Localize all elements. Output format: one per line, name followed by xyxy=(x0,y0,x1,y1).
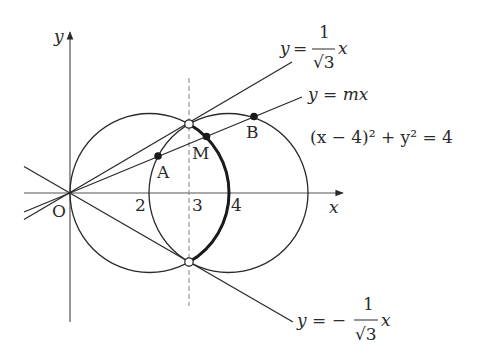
line-y-neg-1-over-sqrt3-x xyxy=(24,167,293,323)
label-A: A xyxy=(156,162,170,182)
label-y-axis: y xyxy=(53,26,64,46)
svg-text:1: 1 xyxy=(363,294,374,314)
label-B: B xyxy=(246,122,259,142)
svg-text:=: = xyxy=(293,38,307,58)
tick-label-2: 2 xyxy=(135,195,146,215)
svg-text:1: 1 xyxy=(319,22,330,42)
equation-line-upper: y = 1 √3 x xyxy=(279,22,348,72)
label-M: M xyxy=(192,143,209,163)
svg-text:x: x xyxy=(338,38,348,58)
point-B xyxy=(250,113,258,121)
equation-circle: (x − 4)² + y² = 4 xyxy=(310,127,453,147)
open-point-upper xyxy=(185,120,193,128)
label-x-axis: x xyxy=(329,197,339,217)
svg-text:√3: √3 xyxy=(355,324,377,344)
point-A xyxy=(154,152,162,160)
label-origin: O xyxy=(52,201,66,221)
equation-line-lower: y = − 1 √3 x xyxy=(296,294,391,344)
equation-line-m: y = mx xyxy=(307,84,369,104)
svg-text:x: x xyxy=(381,310,391,330)
svg-text:y: y xyxy=(279,38,290,58)
open-point-lower xyxy=(185,258,193,266)
geometry-figure: A M B O y x 2 3 4 y = 1 √3 x y = mx (x −… xyxy=(0,0,483,357)
tick-label-4: 4 xyxy=(231,195,242,215)
svg-text:y: y xyxy=(296,310,307,330)
tick-label-3: 3 xyxy=(192,195,203,215)
svg-text:√3: √3 xyxy=(313,52,335,72)
point-M xyxy=(203,133,211,141)
svg-text:= −: = − xyxy=(312,310,346,330)
